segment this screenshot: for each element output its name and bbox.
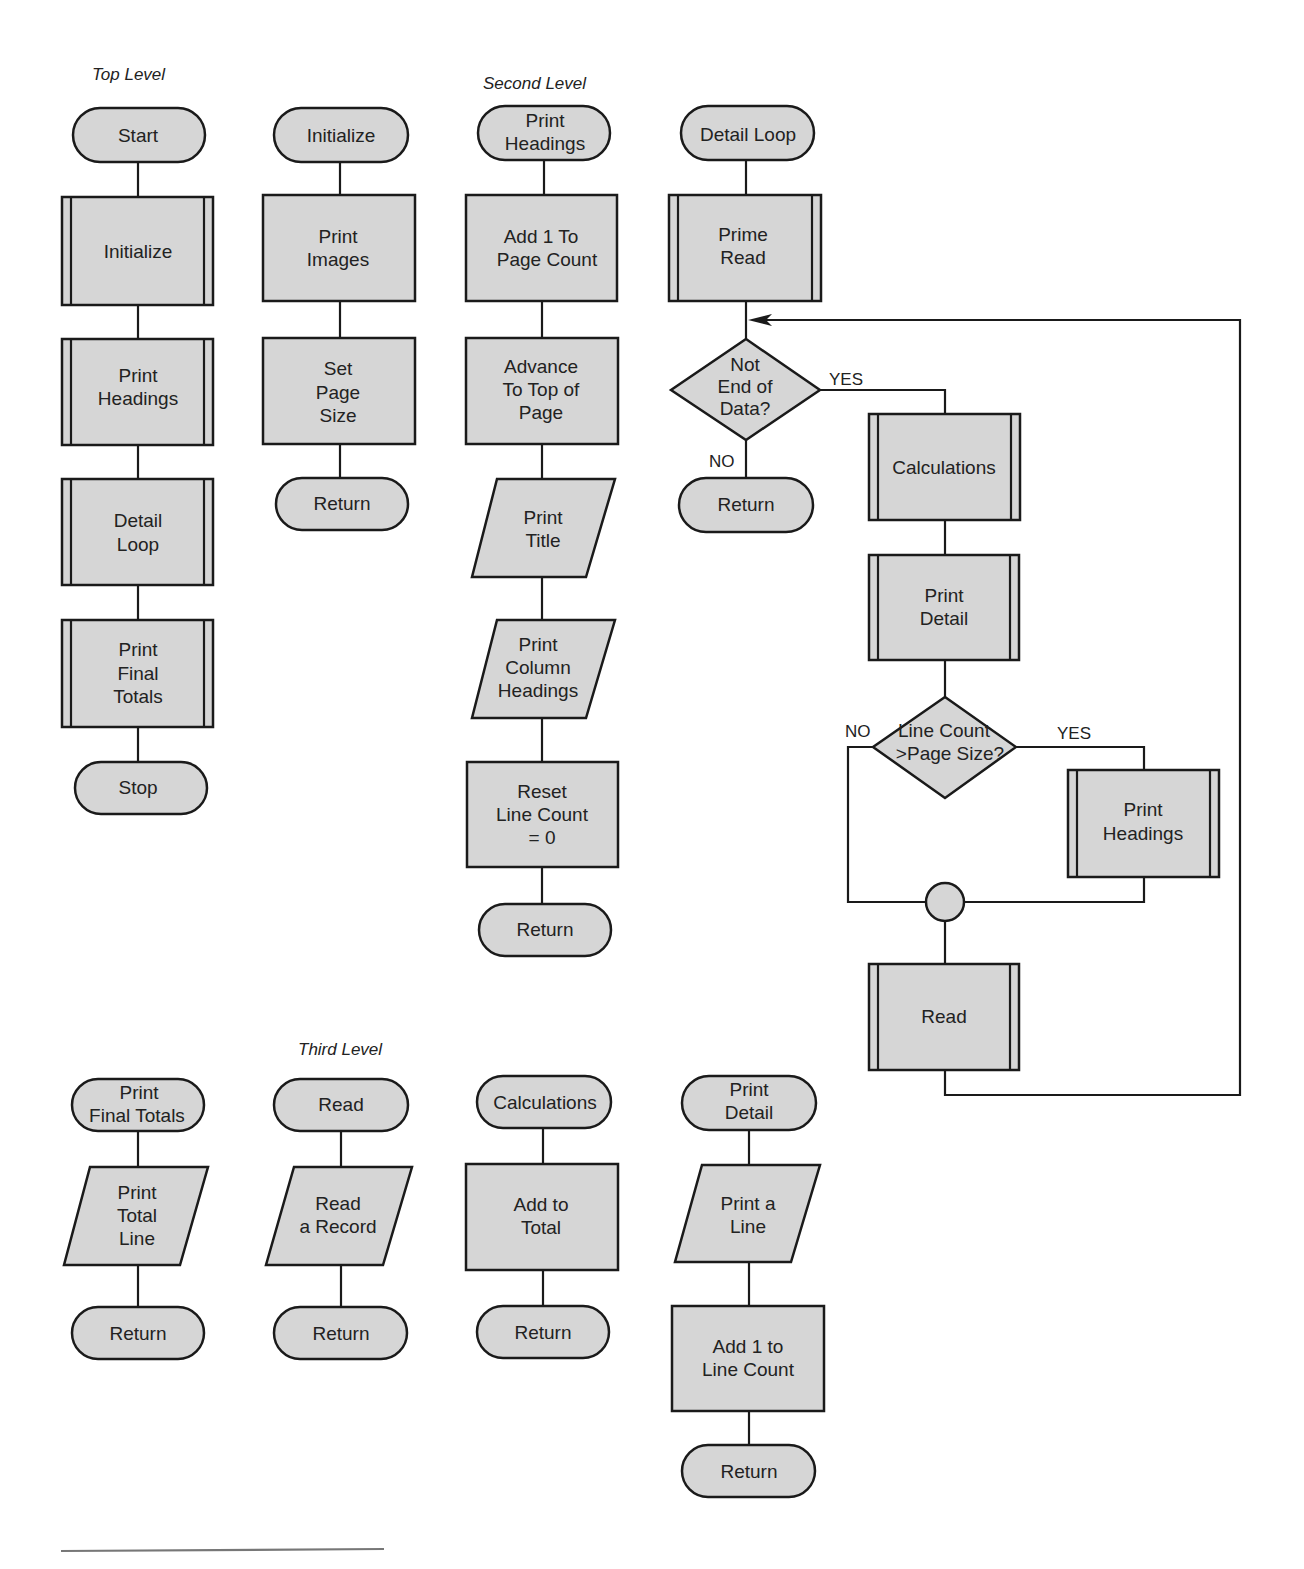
svg-text:Set: Set [324,358,353,379]
svg-text:Print a: Print a [721,1193,776,1214]
svg-text:Read: Read [318,1094,363,1115]
svg-text:Advance: Advance [504,356,578,377]
svg-text:Return: Return [312,1323,369,1344]
third-level-print-detail: Print Detail Print a Line Add 1 to Line … [672,1076,824,1497]
svg-text:Page: Page [519,402,563,423]
terminal-return: Return [679,478,813,532]
svg-text:Column: Column [505,657,570,678]
initialize-module-flow: Initialize Print Images Set Page Size Re… [263,108,415,530]
svg-text:Final: Final [117,663,158,684]
svg-text:Line Count: Line Count [702,1359,795,1380]
svg-text:Read: Read [720,247,765,268]
svg-text:Not: Not [730,354,760,375]
svg-text:Print: Print [1123,799,1163,820]
svg-text:Prime: Prime [718,224,768,245]
connector-circle [926,883,964,921]
terminal-print-headings: Print Headings [478,106,610,160]
svg-text:Print: Print [518,634,558,655]
svg-text:Detail Loop: Detail Loop [700,124,796,145]
svg-text:a Record: a Record [299,1216,376,1237]
label-yes: YES [1057,724,1091,743]
top-level-flow: Start Initialize Print Headings Detail L… [62,108,213,814]
process-calculations: Calculations [869,414,1020,520]
svg-text:Return: Return [514,1322,571,1343]
svg-text:Add 1 To: Add 1 To [504,226,579,247]
svg-text:Print: Print [924,585,964,606]
svg-text:End of: End of [718,376,774,397]
svg-text:Page Count: Page Count [497,249,598,270]
svg-text:Read: Read [921,1006,966,1027]
process-reset-line-count: Reset Line Count = 0 [467,762,618,867]
svg-text:Print: Print [318,226,358,247]
svg-text:Start: Start [118,125,159,146]
svg-text:Reset: Reset [517,781,567,802]
process-add-page-count: Add 1 To Page Count [466,195,617,301]
svg-text:Total: Total [117,1205,157,1226]
third-level-print-final-totals: Print Final Totals Print Total Line Retu… [64,1079,208,1359]
process-print-headings: Print Headings [1068,770,1219,877]
decision-line-count-page-size: Line Count >Page Size? [873,697,1016,798]
svg-text:Final Totals: Final Totals [89,1105,185,1126]
svg-text:Print: Print [525,110,565,131]
svg-text:Headings: Headings [98,388,178,409]
svg-text:Read: Read [315,1193,360,1214]
svg-text:Line Count: Line Count [496,804,589,825]
section-title-second-level: Second Level [483,74,587,93]
svg-text:Images: Images [307,249,369,270]
svg-text:Initialize: Initialize [307,125,376,146]
svg-text:Line: Line [119,1228,155,1249]
label-no: NO [845,722,871,741]
process-print-detail: Print Detail [869,555,1019,660]
svg-text:Totals: Totals [113,686,163,707]
svg-text:Calculations: Calculations [892,457,996,478]
third-level-calculations: Calculations Add to Total Return [466,1076,618,1358]
svg-text:Title: Title [525,530,560,551]
section-title-third-level: Third Level [298,1040,383,1059]
flowchart-canvas: Top Level Second Level Third Level Start… [0,0,1304,1569]
svg-text:Stop: Stop [118,777,157,798]
terminal-start: Start [73,108,205,162]
terminal-stop: Stop [75,762,207,814]
svg-text:Detail: Detail [114,510,163,531]
svg-text:Loop: Loop [117,534,159,555]
process-read: Read [869,964,1019,1070]
svg-text:Add 1 to: Add 1 to [713,1336,784,1357]
process-prime-read: Prime Read [669,195,821,301]
terminal-detail-loop: Detail Loop [681,106,814,160]
svg-text:Page: Page [316,382,360,403]
terminal-initialize: Initialize [274,108,408,162]
process-print-images: Print Images [263,195,415,301]
io-print-title: Print Title [472,479,615,577]
svg-text:Total: Total [521,1217,561,1238]
svg-text:Calculations: Calculations [493,1092,597,1113]
svg-text:Print: Print [117,1182,157,1203]
label-yes: YES [829,370,863,389]
terminal-return: Return [276,478,408,530]
process-print-headings: Print Headings [62,339,213,445]
svg-text:Detail: Detail [920,608,969,629]
footnote-rule [61,1549,384,1551]
svg-text:Print: Print [729,1079,769,1100]
svg-text:Headings: Headings [505,133,585,154]
svg-text:Headings: Headings [1103,823,1183,844]
svg-text:Return: Return [109,1323,166,1344]
svg-text:Headings: Headings [498,680,578,701]
svg-text:Return: Return [720,1461,777,1482]
svg-text:Data?: Data? [720,398,771,419]
svg-text:Line Count: Line Count [898,720,991,741]
svg-text:To Top of: To Top of [503,379,580,400]
process-advance-top-of-page: Advance To Top of Page [466,338,618,444]
svg-text:>Page Size?: >Page Size? [896,743,1004,764]
svg-text:Add to: Add to [514,1194,569,1215]
process-detail-loop: Detail Loop [62,479,213,585]
svg-text:Return: Return [516,919,573,940]
terminal-return: Return [479,904,611,956]
svg-text:Print: Print [118,365,158,386]
svg-text:Print: Print [119,1082,159,1103]
svg-text:Print: Print [118,639,158,660]
print-headings-module-flow: Print Headings Add 1 To Page Count Advan… [466,106,618,956]
svg-text:Return: Return [717,494,774,515]
svg-text:Detail: Detail [725,1102,774,1123]
label-no: NO [709,452,735,471]
decision-not-end-of-data: Not End of Data? [671,339,820,440]
